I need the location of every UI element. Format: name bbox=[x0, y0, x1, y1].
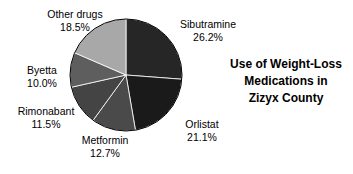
slice-name-rimonabant: Rimonabant bbox=[0, 105, 92, 118]
slice-label-byetta: Byetta 10.0% bbox=[8, 64, 76, 89]
slice-value-rimonabant: 11.5% bbox=[0, 118, 92, 131]
chart-title: Use of Weight-Loss Medications in Zizyx … bbox=[222, 56, 350, 107]
chart-title-line-1: Use of Weight-Loss bbox=[222, 56, 350, 73]
chart-title-line-2: Medications in bbox=[222, 73, 350, 90]
slice-name-sibutramine: Sibutramine bbox=[160, 18, 256, 31]
slice-label-rimonabant: Rimonabant 11.5% bbox=[0, 105, 92, 130]
slice-label-other-drugs: Other drugs 18.5% bbox=[27, 8, 123, 33]
pie-chart-figure: Other drugs 18.5% Sibutramine 26.2% Byet… bbox=[0, 0, 353, 174]
chart-title-line-3: Zizyx County bbox=[222, 90, 350, 107]
slice-name-metformin: Metformin bbox=[62, 134, 148, 147]
slice-label-metformin: Metformin 12.7% bbox=[62, 134, 148, 159]
slice-name-other-drugs: Other drugs bbox=[27, 8, 123, 21]
slice-value-orlistat: 21.1% bbox=[160, 131, 244, 144]
slice-label-orlistat: Orlistat 21.1% bbox=[160, 118, 244, 143]
slice-name-orlistat: Orlistat bbox=[160, 118, 244, 131]
slice-value-byetta: 10.0% bbox=[8, 77, 76, 90]
slice-label-sibutramine: Sibutramine 26.2% bbox=[160, 18, 256, 43]
slice-name-byetta: Byetta bbox=[8, 64, 76, 77]
slice-value-sibutramine: 26.2% bbox=[160, 31, 256, 44]
slice-value-metformin: 12.7% bbox=[62, 147, 148, 160]
slice-value-other-drugs: 18.5% bbox=[27, 21, 123, 34]
